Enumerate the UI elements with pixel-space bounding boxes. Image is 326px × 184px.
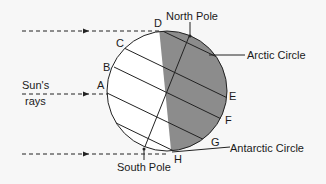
suns-rays-label-line2: rays — [25, 95, 46, 107]
north-pole-label: North Pole — [166, 10, 218, 22]
point-c-label: C — [116, 37, 124, 49]
point-g-label: G — [211, 136, 220, 148]
ray-arrowheads — [83, 29, 89, 157]
antarctic-circle-label: Antarctic Circle — [230, 142, 304, 154]
point-a-label: A — [97, 79, 105, 91]
suns-rays-label-line1: Sun's — [22, 79, 50, 91]
south-pole-label: South Pole — [117, 161, 171, 173]
earth-illumination-diagram: North Pole Arctic Circle Antarctic Circl… — [0, 0, 326, 184]
arrow-icon — [83, 92, 89, 97]
north-pole-dot — [189, 35, 192, 38]
point-e-label: E — [229, 90, 236, 102]
arctic-circle-label: Arctic Circle — [247, 49, 306, 61]
south-pole-dot — [143, 148, 146, 151]
point-b-label: B — [103, 61, 110, 73]
diagram-canvas: North Pole Arctic Circle Antarctic Circl… — [0, 0, 326, 184]
arrow-icon — [83, 152, 89, 157]
point-h-label: H — [174, 153, 182, 165]
arrow-icon — [83, 29, 89, 34]
point-f-label: F — [225, 114, 232, 126]
point-d-label: D — [154, 17, 162, 29]
